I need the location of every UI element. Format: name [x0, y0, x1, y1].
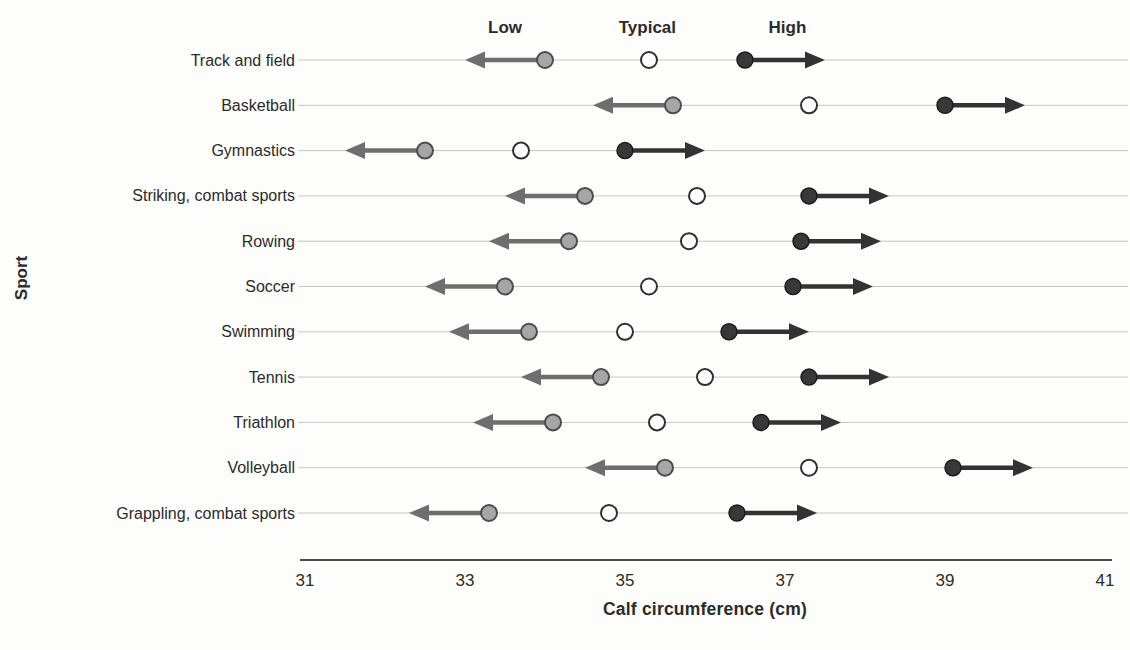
legend-label-high: High — [769, 18, 807, 37]
low-marker — [593, 369, 609, 385]
chart-container: Sport Track and fieldBasketballGymnastic… — [0, 0, 1130, 650]
row-label: Basketball — [221, 97, 295, 114]
high-arrow-head — [869, 187, 889, 204]
low-marker — [665, 97, 681, 113]
x-tick-label: 37 — [776, 571, 795, 590]
x-axis-title: Calf circumference (cm) — [305, 599, 1105, 620]
high-marker — [617, 143, 633, 159]
plot-area: Track and fieldBasketballGymnasticsStrik… — [0, 0, 1130, 650]
x-tick-label: 41 — [1096, 571, 1115, 590]
row-label: Soccer — [245, 278, 295, 295]
typical-marker — [641, 279, 657, 295]
typical-marker — [513, 143, 529, 159]
high-marker — [937, 97, 953, 113]
high-arrow-head — [861, 233, 881, 250]
low-arrow-head — [593, 97, 613, 114]
high-arrow-head — [821, 414, 841, 431]
high-arrow-head — [853, 278, 873, 295]
low-arrow-head — [473, 414, 493, 431]
low-arrow-head — [521, 369, 541, 386]
low-marker — [497, 279, 513, 295]
high-marker — [785, 279, 801, 295]
row-label: Volleyball — [227, 459, 295, 476]
high-arrow-head — [797, 505, 817, 522]
high-marker — [729, 505, 745, 521]
high-arrow-head — [1005, 97, 1025, 114]
row-label: Rowing — [242, 233, 295, 250]
low-arrow-head — [425, 278, 445, 295]
x-tick-label: 33 — [456, 571, 475, 590]
high-marker — [721, 324, 737, 340]
low-arrow-head — [345, 142, 365, 159]
x-tick-label: 35 — [616, 571, 635, 590]
low-marker — [545, 414, 561, 430]
low-arrow-head — [465, 52, 485, 69]
row-label: Triathlon — [233, 414, 295, 431]
high-arrow-head — [685, 142, 705, 159]
typical-marker — [681, 233, 697, 249]
typical-marker — [801, 97, 817, 113]
low-marker — [521, 324, 537, 340]
typical-marker — [801, 460, 817, 476]
high-arrow-head — [1013, 459, 1033, 476]
low-marker — [481, 505, 497, 521]
typical-marker — [641, 52, 657, 68]
typical-marker — [601, 505, 617, 521]
typical-marker — [697, 369, 713, 385]
low-arrow-head — [449, 323, 469, 340]
high-marker — [737, 52, 753, 68]
low-arrow-head — [409, 505, 429, 522]
high-marker — [945, 460, 961, 476]
row-label: Tennis — [249, 369, 295, 386]
typical-marker — [689, 188, 705, 204]
high-marker — [753, 414, 769, 430]
row-label: Striking, combat sports — [132, 187, 295, 204]
high-marker — [793, 233, 809, 249]
low-marker — [537, 52, 553, 68]
high-marker — [801, 188, 817, 204]
x-tick-label: 39 — [936, 571, 955, 590]
row-label: Grappling, combat sports — [116, 505, 295, 522]
legend-label-low: Low — [488, 18, 523, 37]
low-marker — [577, 188, 593, 204]
typical-marker — [617, 324, 633, 340]
legend-label-typical: Typical — [619, 18, 676, 37]
low-arrow-head — [489, 233, 509, 250]
low-marker — [657, 460, 673, 476]
high-arrow-head — [869, 369, 889, 386]
row-label: Gymnastics — [211, 142, 295, 159]
high-arrow-head — [789, 323, 809, 340]
high-marker — [801, 369, 817, 385]
row-label: Swimming — [221, 323, 295, 340]
x-tick-label: 31 — [296, 571, 315, 590]
high-arrow-head — [805, 52, 825, 69]
low-marker — [417, 143, 433, 159]
low-marker — [561, 233, 577, 249]
row-label: Track and field — [191, 52, 295, 69]
low-arrow-head — [585, 459, 605, 476]
typical-marker — [649, 414, 665, 430]
y-axis-title: Sport — [12, 228, 32, 328]
low-arrow-head — [505, 187, 525, 204]
